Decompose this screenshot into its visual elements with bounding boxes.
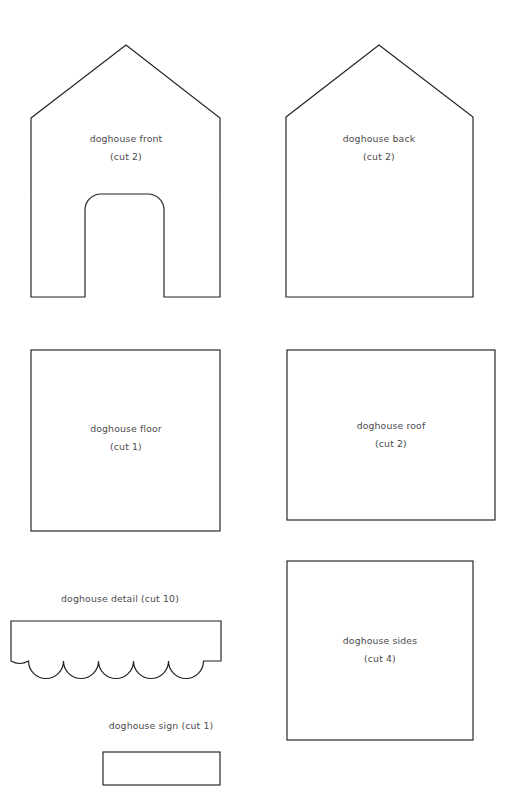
doghouse-detail-label: doghouse detail (cut 10) xyxy=(61,593,179,604)
doghouse-sign-outline xyxy=(103,752,220,785)
doghouse-back-outline xyxy=(286,45,473,297)
doghouse-roof-label: doghouse roof xyxy=(357,420,426,431)
piece-doghouse-front: doghouse front (cut 2) xyxy=(31,45,220,297)
doghouse-floor-label: doghouse floor xyxy=(90,423,162,434)
doghouse-sides-cut-label: (cut 4) xyxy=(364,653,396,664)
doghouse-sides-label: doghouse sides xyxy=(343,635,417,646)
doghouse-front-label: doghouse front xyxy=(90,133,163,144)
piece-doghouse-sides: doghouse sides (cut 4) xyxy=(287,561,473,740)
doghouse-sign-label: doghouse sign (cut 1) xyxy=(109,720,214,731)
doghouse-floor-cut-label: (cut 1) xyxy=(110,441,142,452)
piece-doghouse-detail: doghouse detail (cut 10) xyxy=(11,593,221,679)
doghouse-sides-outline xyxy=(287,561,473,740)
doghouse-back-cut-label: (cut 2) xyxy=(363,151,395,162)
doghouse-roof-cut-label: (cut 2) xyxy=(375,438,407,449)
piece-doghouse-floor: doghouse floor (cut 1) xyxy=(31,350,220,531)
pattern-sheet: doghouse front (cut 2) doghouse back (cu… xyxy=(0,0,514,795)
doghouse-front-cut-label: (cut 2) xyxy=(110,151,142,162)
doghouse-detail-outline xyxy=(11,621,221,679)
doghouse-roof-outline xyxy=(287,350,495,520)
piece-doghouse-back: doghouse back (cut 2) xyxy=(286,45,473,297)
piece-doghouse-sign: doghouse sign (cut 1) xyxy=(103,720,220,785)
doghouse-front-outline xyxy=(31,45,220,297)
pattern-canvas: doghouse front (cut 2) doghouse back (cu… xyxy=(0,0,514,795)
piece-doghouse-roof: doghouse roof (cut 2) xyxy=(287,350,495,520)
doghouse-back-label: doghouse back xyxy=(343,133,416,144)
